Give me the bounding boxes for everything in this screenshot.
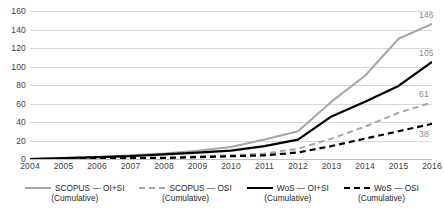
y-axis: 020406080100120140160 — [0, 0, 30, 170]
x-axis: 2004200520062007200820092010201120122013… — [30, 161, 432, 177]
y-axis-tick-label: 80 — [16, 80, 26, 90]
legend-swatch — [25, 187, 51, 189]
x-axis-tick-label: 2004 — [20, 161, 40, 171]
legend-sublabel: (Cumulative) — [358, 193, 405, 203]
x-axis-tick-label: 2005 — [54, 161, 74, 171]
legend-label: SCOPUS — OI+SI — [55, 183, 124, 193]
x-axis-tick-label: 2009 — [188, 161, 208, 171]
y-axis-tick-label: 40 — [16, 117, 26, 127]
x-axis-tick-label: 2007 — [121, 161, 141, 171]
series-line — [30, 124, 432, 159]
legend-item[interactable]: WoS — OSI(Cumulative) — [344, 183, 419, 204]
x-axis-tick-label: 2010 — [221, 161, 241, 171]
x-axis-tick-label: 2006 — [87, 161, 107, 171]
y-axis-tick-label: 160 — [11, 6, 26, 16]
series-end-label: 61 — [419, 89, 429, 99]
x-axis-tick-label: 2011 — [255, 161, 274, 171]
plot-area — [30, 11, 432, 159]
series-end-label: 146 — [419, 10, 434, 20]
series-line — [30, 62, 432, 159]
legend-label: SCOPUS — OSI — [169, 183, 231, 193]
x-axis-tick-label: 2015 — [389, 161, 409, 171]
chart-legend: SCOPUS — OI+SI(Cumulative)SCOPUS — OSI(C… — [0, 183, 444, 204]
legend-item[interactable]: WoS — OI+SI(Cumulative) — [247, 183, 329, 204]
legend-label: WoS — OI+SI — [277, 183, 329, 193]
legend-sublabel: (Cumulative) — [162, 193, 209, 203]
series-lines — [30, 11, 432, 159]
y-axis-tick-label: 120 — [11, 43, 26, 53]
x-axis-tick-label: 2013 — [322, 161, 342, 171]
x-axis-tick-label: 2014 — [355, 161, 375, 171]
legend-label: WoS — OSI — [374, 183, 419, 193]
legend-item[interactable]: SCOPUS — OSI(Cumulative) — [139, 183, 231, 204]
y-axis-tick-label: 100 — [11, 62, 26, 72]
y-axis-tick-label: 140 — [11, 25, 26, 35]
series-end-label: 38 — [419, 129, 429, 139]
legend-swatch — [139, 187, 165, 189]
legend-sublabel: (Cumulative) — [51, 193, 98, 203]
x-axis-tick-label: 2012 — [288, 161, 308, 171]
chart-container: 020406080100120140160 200420052006200720… — [0, 0, 444, 221]
legend-swatch — [247, 187, 273, 189]
x-axis-tick-label: 2008 — [154, 161, 174, 171]
legend-swatch — [344, 187, 370, 189]
gridline — [30, 159, 432, 160]
legend-item[interactable]: SCOPUS — OI+SI(Cumulative) — [25, 183, 124, 204]
legend-sublabel: (Cumulative) — [264, 193, 311, 203]
series-end-label: 105 — [419, 48, 434, 58]
x-axis-tick-label: 2016 — [422, 161, 442, 171]
y-axis-tick-label: 60 — [16, 99, 26, 109]
series-line — [30, 24, 432, 159]
y-axis-tick-label: 20 — [16, 136, 26, 146]
